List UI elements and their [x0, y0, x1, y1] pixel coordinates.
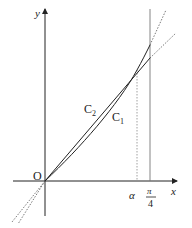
c2-extension-lower	[12, 181, 45, 222]
pi-over-4-numerator: π	[147, 186, 152, 196]
pi-over-4-denominator: 4	[148, 198, 153, 209]
c1-tangent-upper	[150, 10, 166, 45]
y-axis-label: y	[34, 7, 40, 19]
x-axis-label: x	[170, 185, 176, 197]
curve-c1	[45, 45, 150, 181]
graph: y x O C2 C1 α π 4	[0, 0, 192, 228]
c1-label: C1	[112, 110, 124, 126]
c1-tangent-lower	[18, 181, 45, 224]
origin-label: O	[33, 169, 42, 183]
c2-label: C2	[84, 102, 96, 118]
curve-c2	[45, 58, 150, 181]
alpha-label: α	[129, 189, 135, 201]
